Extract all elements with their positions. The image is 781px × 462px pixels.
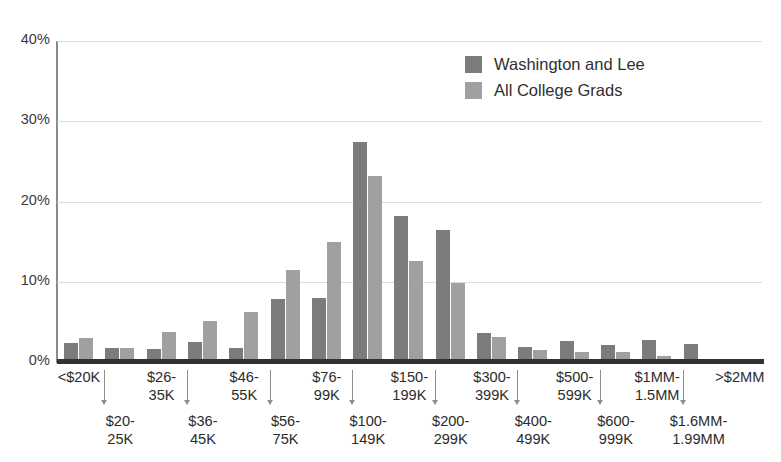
bar [353,142,367,362]
legend-label: Washington and Lee [494,55,645,74]
gridline [57,41,762,42]
x-axis-labels: <$20K$20-25K$26-35K$36-45K$46-55K$56-75K… [0,366,781,462]
y-axis-tick-label: 10% [2,272,50,288]
legend: Washington and LeeAll College Grads [465,54,645,100]
x-axis-tick-label: >$2MM [665,368,781,386]
bar [203,321,217,362]
bar [271,299,285,362]
bar [451,283,465,362]
y-axis-tick-label: 30% [2,111,50,127]
bar [162,332,176,362]
legend-item: All College Grads [465,80,645,100]
income-distribution-bar-chart: 0%10%20%30%40% Washington and LeeAll Col… [0,0,781,462]
gridline [57,202,762,203]
y-axis-tick-label: 20% [2,192,50,208]
bar [286,270,300,362]
x-axis-tick-label: $1.6MM-1.99MM [624,412,774,448]
bar [327,242,341,362]
bar [394,216,408,362]
y-axis-tick-label: 40% [2,31,50,47]
bar [368,176,382,362]
bar [436,230,450,362]
gridline [57,121,762,122]
plot-area [57,41,762,362]
legend-item: Washington and Lee [465,54,645,74]
bar [477,333,491,362]
bar [244,312,258,362]
legend-label: All College Grads [494,81,622,100]
x-axis-baseline [57,359,764,364]
legend-swatch [465,56,482,73]
legend-swatch [465,82,482,99]
bar [409,261,423,362]
bar [312,298,326,362]
